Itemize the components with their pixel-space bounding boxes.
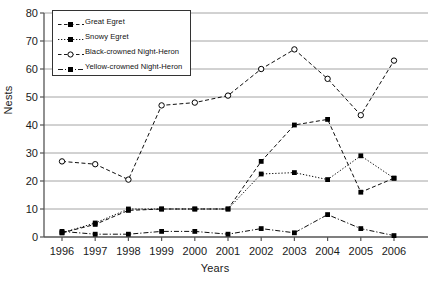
data-point-marker [392,233,397,238]
y-tick-label: 10 [12,204,38,215]
data-point-marker [358,153,363,158]
data-point-marker [225,93,230,98]
data-point-marker [292,47,297,52]
y-tick-label: 50 [12,92,38,103]
y-tick-label: 20 [12,176,38,187]
data-point-marker [292,230,297,235]
data-point-marker [192,207,197,212]
data-point-marker [292,170,297,175]
data-point-marker [159,229,164,234]
x-axis-title: Years [0,262,430,274]
data-point-marker [259,172,264,177]
data-point-marker [93,232,98,237]
legend-item-yellow-crowned-night-heron: Yellow-crowned Night-Heron [53,59,190,74]
legend-marker-filled-square-dashdot-icon [57,61,85,72]
data-point-marker [126,207,131,212]
legend-label: Great Egret [85,17,125,26]
chart-legend: Great Egret Snowy Egret Black-crowned Ni… [52,10,191,76]
data-point-marker [392,176,397,181]
data-point-marker [126,232,131,237]
y-tick-label: 0 [12,232,38,243]
legend-item-great-egret: Great Egret [53,14,190,29]
data-point-marker [259,66,264,71]
y-tick-label: 30 [12,148,38,159]
data-point-marker [259,226,264,231]
y-tick-label: 80 [12,8,38,19]
legend-item-black-crowned-night-heron: Black-crowned Night-Heron [53,44,190,59]
data-point-marker [325,177,330,182]
legend-label: Snowy Egret [85,32,129,41]
legend-label: Yellow-crowned Night-Heron [85,62,182,71]
data-point-marker [325,117,330,122]
data-point-marker [192,100,197,105]
data-point-marker [226,207,231,212]
data-point-marker [358,190,363,195]
data-point-marker [226,232,231,237]
data-point-marker [93,162,98,167]
data-point-marker [358,226,363,231]
data-point-marker [59,159,64,164]
legend-marker-filled-square-dotted-icon [57,31,85,42]
y-tick-label: 60 [12,64,38,75]
data-point-marker [325,212,330,217]
series-great-egret [60,117,397,235]
data-point-marker [192,229,197,234]
legend-label: Black-crowned Night-Heron [85,47,179,56]
series-snowy-egret [60,153,397,235]
data-point-marker [292,123,297,128]
y-tick-label: 70 [12,36,38,47]
data-point-marker [159,207,164,212]
x-tick-label: 2006 [374,246,414,257]
data-point-marker [93,221,98,226]
legend-item-snowy-egret: Snowy Egret [53,29,190,44]
data-point-marker [325,76,330,81]
data-point-marker [259,159,264,164]
chart-container: Nests Years 01020304050607080 1996199719… [0,0,430,282]
legend-marker-filled-square-dashed-icon [57,16,85,27]
legend-marker-open-circle-dashed-icon [57,46,85,57]
data-point-marker [126,177,131,182]
series-yellow-crowned-night-heron [60,212,397,238]
data-point-marker [358,113,363,118]
y-tick-label: 40 [12,120,38,131]
data-point-marker [391,58,396,63]
data-point-marker [159,103,164,108]
data-point-marker [60,229,65,234]
